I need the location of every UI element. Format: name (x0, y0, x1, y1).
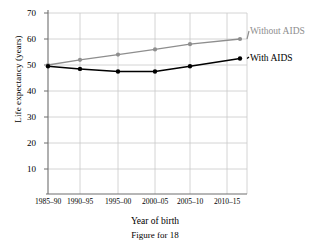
legend-label-without-aids: Without AIDS (250, 26, 305, 36)
figure-caption: Figure for 18 (0, 230, 310, 240)
vertical-gridlines (80, 13, 247, 194)
data-point (78, 67, 82, 71)
data-point (116, 69, 120, 73)
x-axis-title: Year of birth (0, 216, 310, 226)
data-point (46, 64, 50, 68)
data-point (188, 64, 192, 68)
data-point (153, 69, 157, 73)
y-tick-marks (44, 13, 48, 169)
data-point (78, 58, 82, 62)
horizontal-gridlines (48, 13, 247, 169)
figure-container: Life expectancy (years) 70 60 50 40 30 2… (0, 0, 310, 243)
plot-svg (0, 0, 310, 243)
data-point (116, 53, 120, 57)
data-point (238, 56, 242, 60)
data-point (153, 47, 157, 51)
legend-label-with-aids: With AIDS (250, 53, 293, 63)
x-tick-label-6: 2010–15 (205, 198, 249, 206)
data-point (238, 37, 242, 41)
data-point (188, 42, 192, 46)
